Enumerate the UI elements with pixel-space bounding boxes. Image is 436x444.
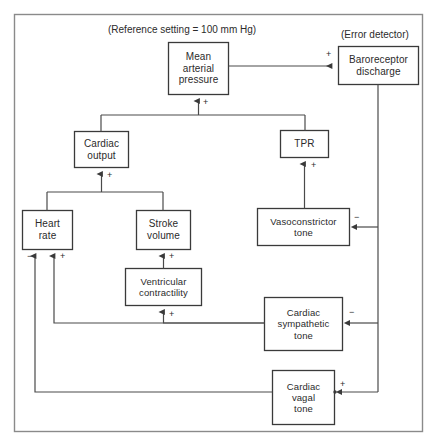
box-heart-rate[interactable] — [23, 211, 73, 250]
diagram-canvas — [0, 0, 436, 444]
sign-into-cardiac-vagal-tone: + — [340, 380, 345, 389]
cardiovascular-control-diagram: (Reference setting = 100 mm Hg) (Error d… — [0, 0, 436, 444]
box-cardiac-output[interactable] — [75, 132, 129, 168]
box-vasoconstrictor-tone[interactable] — [258, 209, 350, 246]
box-stroke-volume[interactable] — [137, 211, 191, 250]
box-cardiac-vagal-tone[interactable] — [273, 371, 335, 425]
node-boxes — [23, 43, 419, 425]
sign-into-cardiac-sympathetic-tone: − — [349, 308, 354, 317]
reference-setting-note: (Reference setting = 100 mm Hg) — [108, 24, 256, 35]
sign-into-stroke-volume: + — [169, 252, 174, 261]
sign-into-vasoconstrictor-tone: − — [354, 213, 359, 222]
box-baroreceptor-discharge[interactable] — [339, 47, 419, 85]
box-cardiac-sympathetic-tone[interactable] — [265, 298, 343, 351]
sign-into-ventricular-contractility: + — [169, 310, 174, 319]
edge-sympathetic-to-ventricular — [164, 312, 265, 323]
sign-into-heart-rate-positive: + — [60, 252, 65, 261]
sign-into-tpr: + — [311, 161, 316, 170]
error-detector-note: (Error detector) — [341, 29, 409, 40]
junction-dot-vagal — [333, 390, 336, 393]
sign-map-to-baroreceptor: + — [326, 50, 331, 59]
box-ventricular-contractility[interactable] — [126, 269, 202, 306]
sign-into-heart-rate-negative: − — [27, 252, 32, 261]
sign-into-mean-arterial-pressure: + — [203, 98, 208, 107]
box-mean-arterial-pressure[interactable] — [169, 43, 229, 95]
sign-into-cardiac-output: + — [107, 171, 112, 180]
box-tpr[interactable] — [281, 131, 329, 158]
